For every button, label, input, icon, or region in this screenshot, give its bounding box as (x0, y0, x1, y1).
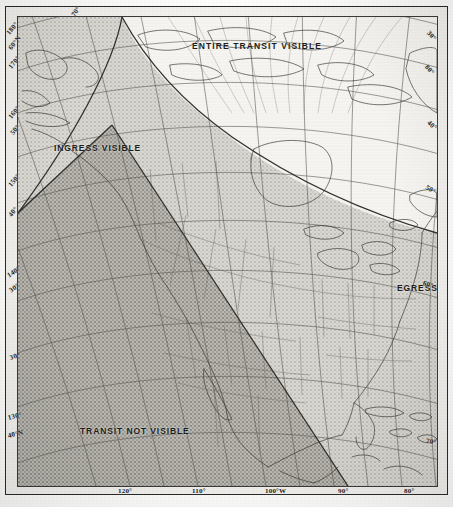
graticule-label-bottom: 80° (404, 487, 414, 495)
zone-label-entire-transit-visible: ENTIRE TRANSIT VISIBLE (192, 41, 322, 52)
map-viewport: ENTIRE TRANSIT VISIBLE INGRESS VISIBLE E… (18, 17, 437, 486)
map-outer-frame: ENTIRE TRANSIT VISIBLE INGRESS VISIBLE E… (5, 6, 448, 495)
transit-visibility-map-svg (18, 17, 437, 486)
graticule-label-right: 70° (425, 437, 436, 446)
zone-label-ingress-visible: INGRESS VISIBLE (54, 143, 141, 154)
zone-label-transit-not-visible: TRANSIT NOT VISIBLE (80, 426, 190, 437)
graticule-label-bottom: 110° (192, 487, 206, 495)
graticule-label-bottom: 120° (118, 487, 132, 495)
zone-label-ingress-text: INGRESS VISIBLE (54, 143, 141, 153)
graticule-label-bottom: 100°W (265, 487, 286, 495)
map-inner-frame: ENTIRE TRANSIT VISIBLE INGRESS VISIBLE E… (17, 16, 438, 487)
figure-root: ENTIRE TRANSIT VISIBLE INGRESS VISIBLE E… (0, 0, 453, 507)
graticule-label-bottom: 90° (338, 487, 348, 495)
